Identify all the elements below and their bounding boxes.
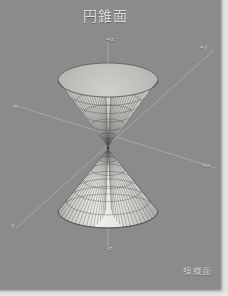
axis-label-y-negative: -y	[9, 222, 15, 228]
axis-label-x-positive: +x	[202, 162, 210, 168]
axis-label-z-negative: -z	[107, 245, 112, 251]
cone-apex	[107, 147, 110, 150]
page-edge-bottom	[0, 289, 228, 296]
axis-label-x-negative: -x	[12, 103, 18, 109]
figure-panel: 円錐面	[0, 0, 228, 296]
figure-title: 円錐面	[0, 5, 210, 25]
axis-label-z-positive: +z	[106, 36, 114, 42]
axis-label-y-positive: +y	[199, 44, 207, 50]
page-edge-right	[220, 0, 228, 296]
upper-nappe	[58, 60, 158, 147]
figure-caption: 線織面	[183, 264, 212, 276]
lower-nappe	[58, 149, 158, 231]
cone-surface-plot	[0, 0, 228, 296]
